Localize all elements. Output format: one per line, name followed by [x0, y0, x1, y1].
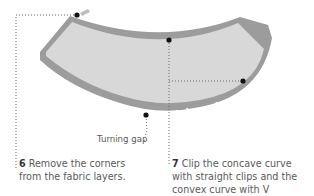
step-6-caption: 6Remove the corners from the fabric laye…	[19, 157, 149, 183]
step-7-text: Clip the concave curve with straight cli…	[172, 158, 297, 196]
turning-gap-dot	[143, 112, 148, 117]
concave-dot	[166, 37, 171, 42]
cut-corner-scrap	[80, 9, 90, 16]
step-6-number: 6	[19, 158, 26, 169]
step-7-number: 7	[172, 158, 179, 169]
turning-gap-label: Turning gap	[97, 134, 147, 144]
step-6-text: Remove the corners from the fabric layer…	[19, 158, 126, 182]
corner-dot	[74, 12, 79, 17]
step-7-caption: 7Clip the concave curve with straight cl…	[172, 157, 312, 196]
convex-dot	[240, 78, 245, 83]
